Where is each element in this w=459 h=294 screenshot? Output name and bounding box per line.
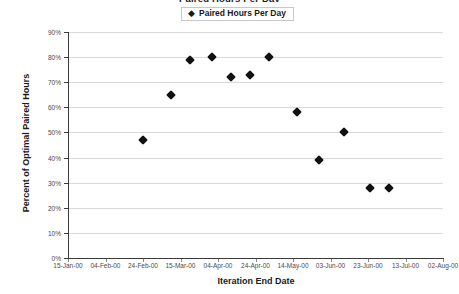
gridline <box>68 82 443 83</box>
y-tick-label: 80% <box>28 54 61 61</box>
y-tick-label: 90% <box>28 29 61 36</box>
y-axis-title: Percent of Optimal Paired Hours <box>21 43 31 243</box>
legend-series-label: Paired Hours Per Day <box>199 9 286 18</box>
y-tick-label: 70% <box>28 79 61 86</box>
gridline <box>68 208 443 209</box>
x-axis-title: Iteration End Date <box>68 276 444 286</box>
chart-container: Paired Hours Per Day ◆ Paired Hours Per … <box>0 0 459 294</box>
y-axis-line <box>68 32 69 259</box>
y-tick-mark <box>64 233 68 234</box>
y-tick-mark <box>64 82 68 83</box>
chart-legend: ◆ Paired Hours Per Day <box>181 7 294 21</box>
plot-area <box>68 32 443 258</box>
y-tick-label: 60% <box>28 104 61 111</box>
y-tick-mark <box>64 158 68 159</box>
gridline <box>68 158 443 159</box>
y-tick-mark <box>64 208 68 209</box>
y-tick-label: 40% <box>28 154 61 161</box>
y-tick-mark <box>64 57 68 58</box>
y-tick-label: 10% <box>28 229 61 236</box>
gridline <box>68 233 443 234</box>
x-tick-label: 02-Aug-00 <box>413 262 459 269</box>
y-tick-mark <box>64 183 68 184</box>
legend-diamond-icon: ◆ <box>188 9 195 18</box>
chart-title: Paired Hours Per Day <box>0 0 459 2</box>
y-tick-label: 50% <box>28 129 61 136</box>
y-tick-label: 30% <box>28 179 61 186</box>
gridline <box>68 107 443 108</box>
gridline <box>68 32 443 33</box>
y-tick-label: 20% <box>28 204 61 211</box>
gridline <box>68 132 443 133</box>
y-tick-label: 0% <box>28 255 61 262</box>
y-tick-mark <box>64 107 68 108</box>
y-tick-mark <box>64 32 68 33</box>
y-tick-mark <box>64 132 68 133</box>
gridline <box>68 57 443 58</box>
